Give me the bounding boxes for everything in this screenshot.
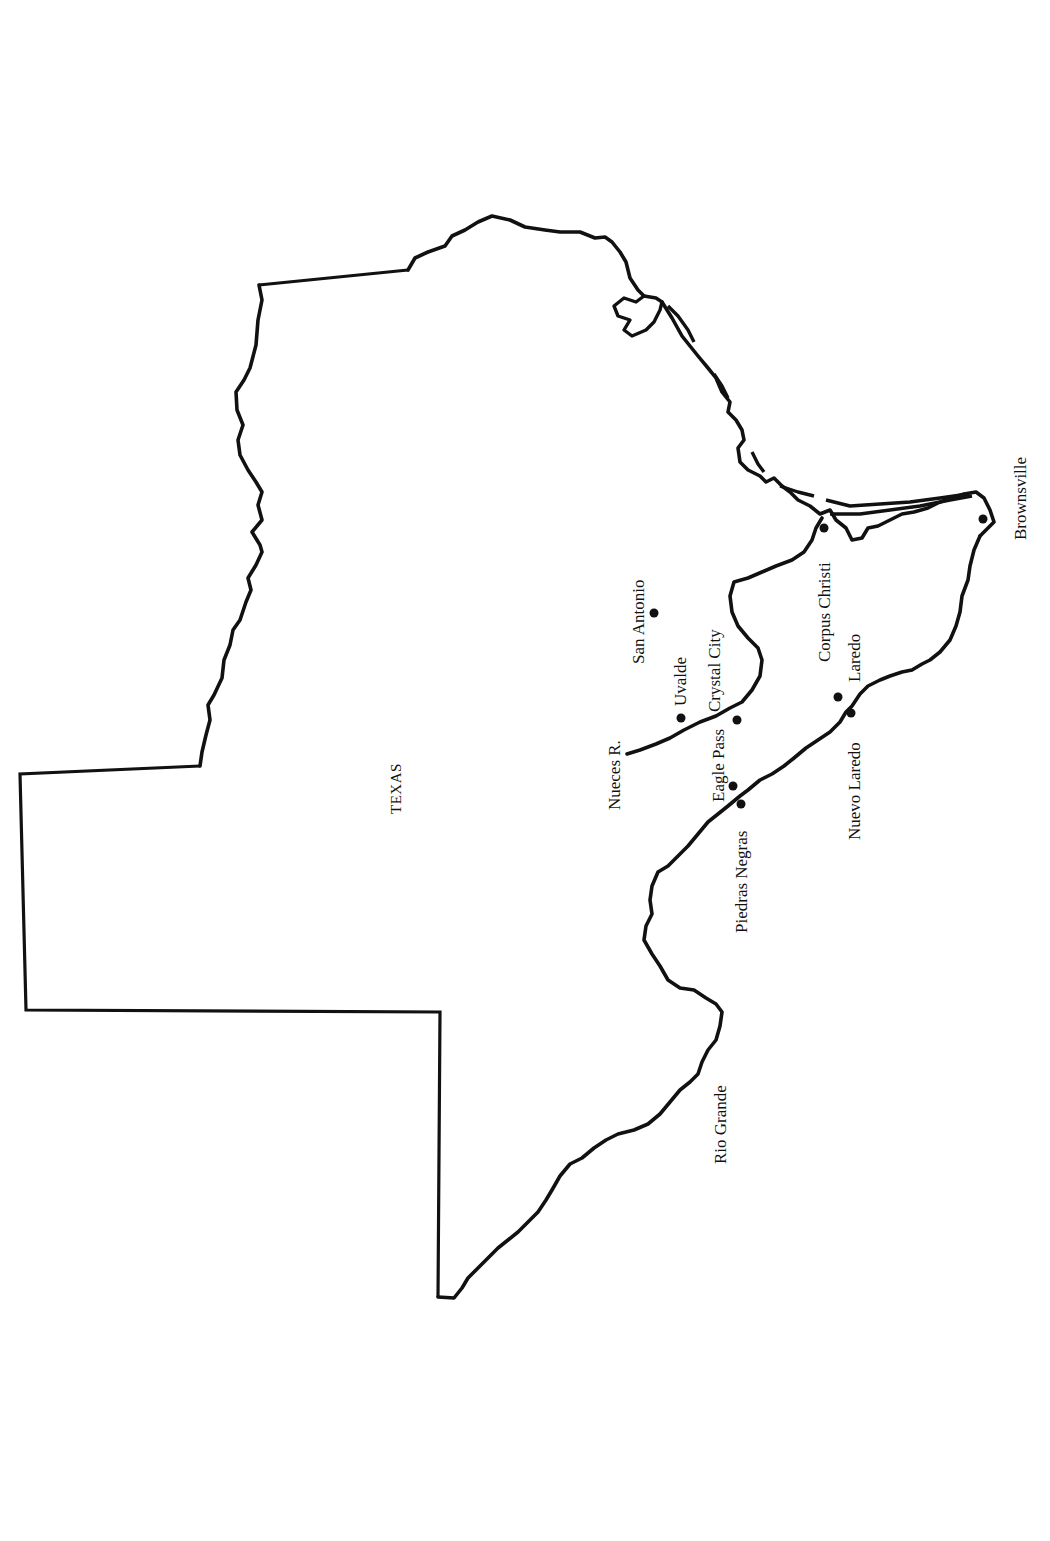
laredo-dot: [834, 693, 843, 702]
red-river-border: [200, 285, 262, 766]
panhandle-border: [20, 270, 440, 1297]
nuevo-laredo-dot: [847, 709, 856, 718]
corpus-christi-dot: [820, 524, 829, 533]
label-brownsville: Brownsville: [1012, 457, 1029, 540]
label-nuevo-laredo: Nuevo Laredo: [846, 742, 863, 840]
state-label-texas: TEXAS: [388, 763, 405, 814]
label-corpus-christi: Corpus Christi: [816, 562, 833, 662]
eagle-pass-dot: [729, 782, 738, 791]
sabine-coast: [614, 296, 662, 336]
uvalde-dot: [677, 714, 686, 723]
brownsville-dot: [979, 515, 988, 524]
crystal-city-dot: [733, 716, 742, 725]
san-antonio-dot: [650, 609, 659, 618]
map-canvas: [0, 0, 1050, 1541]
label-piedras-negras: Piedras Negras: [733, 831, 750, 933]
gulf-coastline: [662, 302, 994, 540]
label-eagle-pass: Eagle Pass: [710, 729, 727, 802]
label-rio-grande: Rio Grande: [712, 1085, 729, 1164]
label-nueces-river: Nueces R.: [606, 740, 623, 810]
label-san-antonio: San Antonio: [630, 579, 647, 664]
barrier-islands: [668, 306, 972, 514]
label-laredo: Laredo: [846, 634, 863, 682]
nueces-river: [627, 518, 822, 754]
east-border: [408, 216, 644, 296]
label-uvalde: Uvalde: [672, 657, 689, 706]
label-crystal-city: Crystal City: [706, 629, 723, 712]
piedras-negras-dot: [737, 800, 746, 809]
texas-map: TEXAS San Antonio Uvalde Crystal City Ea…: [0, 0, 1050, 1541]
